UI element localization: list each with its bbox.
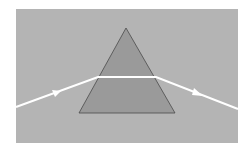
prism-refraction-diagram <box>0 0 252 154</box>
